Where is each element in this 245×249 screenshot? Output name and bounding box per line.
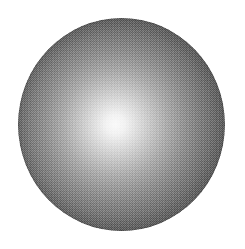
- sphere: [18, 18, 225, 231]
- sphere-shading: [18, 18, 225, 231]
- figure-canvas: [0, 0, 245, 249]
